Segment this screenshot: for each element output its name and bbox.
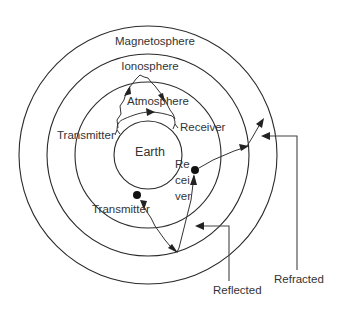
reflected-leader-line: [199, 226, 229, 281]
upper-receiver-stub: [173, 124, 178, 129]
refracted-leader-arrowhead: [261, 132, 270, 140]
lower-receiver-label-line3: ver: [175, 190, 191, 202]
reflected-leader-arrowhead: [195, 222, 204, 230]
lower-transmitter-dot: [133, 191, 141, 199]
propagation-diagram: Magnetosphere Ionosphere Atmosphere Eart…: [0, 0, 340, 312]
refracted-up-arrowhead: [256, 118, 264, 128]
atmosphere-label: Atmosphere: [127, 95, 189, 107]
ground-wave-arrowhead: [146, 108, 155, 116]
upper-receiver-label: Receiver: [180, 121, 226, 133]
refracted-leader-line: [265, 136, 297, 270]
reflected-label: Reflected: [213, 284, 262, 296]
ionosphere-label: Ionosphere: [121, 60, 179, 72]
reflected-wave-path: [143, 176, 194, 252]
upper-transmitter-label: Transmitter: [57, 129, 115, 141]
diagram-canvas: Magnetosphere Ionosphere Atmosphere Eart…: [0, 0, 340, 312]
lower-transmitter-label: Transmitter: [92, 203, 150, 215]
refracted-branch-path: [247, 124, 260, 146]
magnetosphere-label: Magnetosphere: [115, 35, 195, 47]
receiver-up-arrowhead: [190, 174, 197, 185]
lower-receiver-dot: [191, 166, 199, 174]
upper-transmitter-stub: [115, 130, 120, 135]
lower-receiver-label-line2: cei: [175, 174, 190, 186]
refracted-label: Refracted: [274, 273, 324, 285]
lower-receiver-label-line1: Re: [175, 158, 190, 170]
refracted-wave-path: [199, 147, 246, 168]
earth-label: Earth: [135, 145, 165, 159]
